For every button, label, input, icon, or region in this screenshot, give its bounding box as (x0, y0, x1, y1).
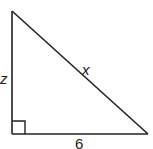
right-triangle-diagram: z x 6 (0, 0, 153, 149)
hypotenuse (12, 11, 148, 134)
right-angle-marker (12, 121, 25, 134)
label-vertical-side: z (0, 70, 8, 87)
label-hypotenuse: x (81, 61, 90, 78)
label-base: 6 (75, 135, 83, 149)
